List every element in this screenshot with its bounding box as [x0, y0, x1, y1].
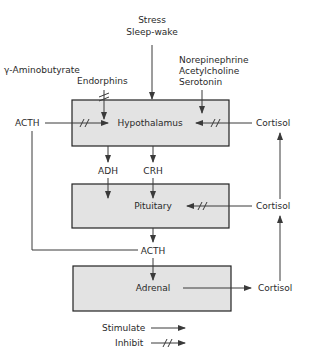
- acth-feedback-label: ACTH: [15, 118, 40, 128]
- cortisol-feedback-hypothalamus-label: Cortisol: [256, 118, 290, 128]
- norepinephrine-label: Norepinephrine: [179, 55, 249, 65]
- gaba-label: γ-Aminobutyrate: [4, 65, 80, 75]
- serotonin-label: Serotonin: [179, 77, 222, 87]
- adh-label: ADH: [98, 166, 118, 176]
- acetylcholine-label: Acetylcholine: [179, 66, 240, 76]
- crh-label: CRH: [143, 166, 162, 176]
- cortisol-output-label: Cortisol: [258, 283, 292, 293]
- endorphins-label: Endorphins: [77, 76, 128, 86]
- adrenal-label: Adrenal: [136, 283, 170, 293]
- stress-label: Stress: [138, 15, 166, 25]
- cortisol-feedback-pituitary-label: Cortisol: [256, 201, 290, 211]
- hypothalamus-label: Hypothalamus: [117, 118, 183, 128]
- pituitary-label: Pituitary: [134, 201, 172, 211]
- legend-inhibit-label: Inhibit: [115, 338, 144, 348]
- legend-stimulate-label: Stimulate: [102, 323, 146, 333]
- sleep-wake-label: Sleep-wake: [126, 27, 178, 37]
- hpa-axis-diagram: Hypothalamus Pituitary Adrenal Stress Sl…: [0, 0, 311, 362]
- acth-label: ACTH: [141, 246, 166, 256]
